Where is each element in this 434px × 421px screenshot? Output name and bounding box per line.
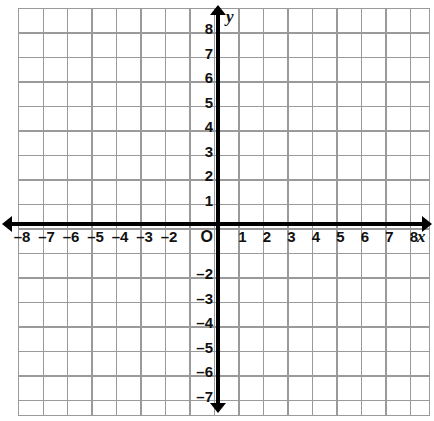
x-tick-label: –8 — [14, 229, 31, 244]
grid-right-edge — [429, 8, 430, 416]
origin-label: O — [201, 229, 213, 245]
y-tick-label: 2 — [205, 168, 213, 183]
y-tick-label: 8 — [205, 21, 213, 36]
x-tick-label: 4 — [312, 229, 320, 244]
y-tick-label: –2 — [196, 266, 213, 281]
x-tick-label: –4 — [112, 229, 129, 244]
y-tick-label: 6 — [205, 70, 213, 85]
y-tick-label: –4 — [196, 315, 213, 330]
x-axis-arrow-left-icon — [2, 216, 12, 232]
y-tick-label: 7 — [205, 45, 213, 60]
x-tick-label: –5 — [87, 229, 104, 244]
grid-bottom-edge — [18, 415, 430, 416]
coordinate-plane: –8–7–6–5–4–3–212345678 87654321–2–3–4–5–… — [0, 0, 434, 421]
x-tick-label: –7 — [38, 229, 55, 244]
y-tick-label: –5 — [196, 339, 213, 354]
y-tick-label: 1 — [205, 192, 213, 207]
y-tick-label: 4 — [205, 119, 213, 134]
grid-background — [18, 8, 430, 416]
y-axis-arrow-top-icon — [210, 5, 226, 15]
y-tick-label: 3 — [205, 143, 213, 158]
y-axis-line — [216, 14, 220, 408]
y-tick-label: 5 — [205, 94, 213, 109]
y-tick-label: –6 — [196, 364, 213, 379]
x-tick-label: 6 — [361, 229, 369, 244]
x-axis-name-label: x — [417, 228, 426, 245]
y-tick-label: –7 — [196, 388, 213, 403]
x-tick-label: –3 — [136, 229, 153, 244]
x-tick-label: 1 — [238, 229, 246, 244]
y-tick-label: –3 — [196, 290, 213, 305]
y-axis-name-label: y — [226, 8, 234, 25]
x-tick-label: 5 — [336, 229, 344, 244]
x-tick-label: 3 — [287, 229, 295, 244]
x-tick-label: –2 — [161, 229, 178, 244]
x-tick-label: 7 — [385, 229, 393, 244]
y-axis-arrow-bottom-icon — [210, 403, 226, 413]
x-tick-label: 2 — [263, 229, 271, 244]
x-tick-label: –6 — [63, 229, 80, 244]
